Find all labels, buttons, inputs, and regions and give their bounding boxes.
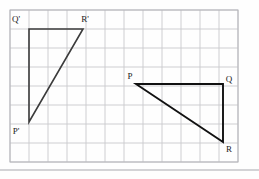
page-background: [0, 0, 259, 179]
vertex-label-p-prime: P': [13, 126, 20, 136]
vertex-label-p: P: [127, 71, 132, 81]
vertex-label-q-prime: Q': [12, 14, 20, 24]
vertex-label-r: R: [226, 144, 232, 154]
geometry-figure: Q' R' P' P Q R: [0, 0, 259, 179]
figure-page: Q' R' P' P Q R: [0, 0, 259, 179]
vertex-label-r-prime: R': [81, 14, 89, 24]
vertex-label-q: Q: [226, 74, 233, 84]
